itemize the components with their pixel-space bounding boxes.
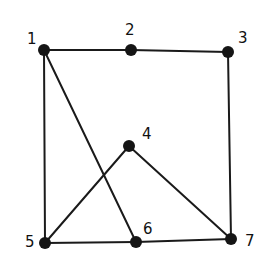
graph-diagram: 1234567 xyxy=(0,0,264,259)
node-label-1: 1 xyxy=(27,30,37,48)
node-label-6: 6 xyxy=(143,220,153,238)
edge-1-5 xyxy=(44,50,45,243)
node-3 xyxy=(222,46,234,58)
node-5 xyxy=(39,237,51,249)
edge-6-7 xyxy=(136,239,231,242)
edge-1-6 xyxy=(44,50,136,242)
node-2 xyxy=(125,44,137,56)
node-label-3: 3 xyxy=(238,29,248,47)
edges-group xyxy=(44,50,231,243)
edge-5-6 xyxy=(45,242,136,243)
node-4 xyxy=(123,140,135,152)
node-label-4: 4 xyxy=(142,125,152,143)
node-6 xyxy=(130,236,142,248)
node-1 xyxy=(38,44,50,56)
labels-group: 1234567 xyxy=(25,21,255,251)
node-7 xyxy=(225,233,237,245)
edge-3-7 xyxy=(228,52,231,239)
node-label-2: 2 xyxy=(125,21,135,39)
node-label-5: 5 xyxy=(25,233,35,251)
node-label-7: 7 xyxy=(245,232,255,250)
edge-4-5 xyxy=(45,146,129,243)
edge-2-3 xyxy=(131,50,228,52)
